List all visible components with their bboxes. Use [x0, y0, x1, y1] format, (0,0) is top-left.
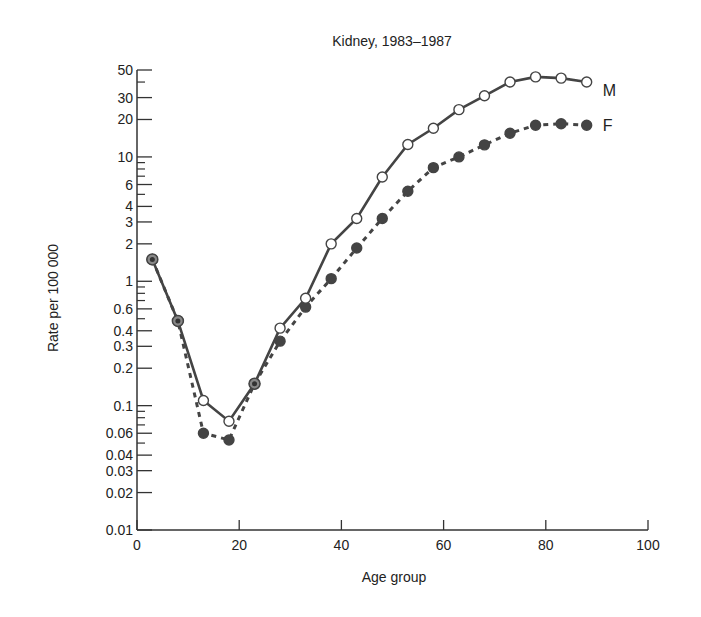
- data-point-F: [377, 213, 387, 223]
- y-tick-label: 10: [117, 149, 133, 165]
- series-label-M: M: [603, 82, 616, 99]
- plot-area: MF: [147, 72, 616, 445]
- x-tick-label: 60: [436, 537, 452, 553]
- data-point-M: [403, 139, 413, 149]
- y-tick-label: 0.1: [114, 398, 134, 414]
- data-point-F: [505, 128, 515, 138]
- axes: 0204060801000.010.020.030.040.060.10.20.…: [106, 62, 660, 553]
- data-point-M: [377, 172, 387, 182]
- data-point-F: [556, 119, 566, 129]
- data-point-F: [275, 336, 285, 346]
- y-tick-label: 0.2: [114, 360, 134, 376]
- y-tick-label: 0.04: [106, 447, 133, 463]
- y-tick-label: 50: [117, 62, 133, 78]
- data-point-M: [275, 323, 285, 333]
- chart-title: Kidney, 1983–1987: [332, 33, 452, 49]
- series-label-F: F: [603, 117, 613, 134]
- data-point-F: [352, 243, 362, 253]
- data-point-F: [326, 274, 336, 284]
- series-line-M: [152, 77, 586, 421]
- y-axis-label: Rate per 100 000: [45, 244, 61, 352]
- y-tick-label: 0.01: [106, 522, 133, 538]
- y-tick-label: 0.6: [114, 301, 134, 317]
- data-point-M: [582, 77, 592, 87]
- series-line-F: [152, 124, 586, 440]
- y-tick-label: 0.4: [114, 323, 134, 339]
- x-tick-label: 100: [636, 537, 660, 553]
- y-tick-label: 0.02: [106, 485, 133, 501]
- data-point-M: [428, 123, 438, 133]
- data-point-M: [531, 72, 541, 82]
- data-point-F: [198, 428, 208, 438]
- y-tick-label: 2: [125, 236, 133, 252]
- y-tick-label: 4: [125, 198, 133, 214]
- y-tick-label: 1: [125, 273, 133, 289]
- data-point-F: [224, 435, 234, 445]
- overlap-point-core: [175, 318, 180, 323]
- data-point-F: [454, 152, 464, 162]
- data-point-F: [479, 140, 489, 150]
- data-point-F: [428, 163, 438, 173]
- y-tick-label: 0.06: [106, 425, 133, 441]
- y-tick-label: 20: [117, 111, 133, 127]
- data-point-M: [505, 77, 515, 87]
- data-point-M: [198, 395, 208, 405]
- data-point-M: [326, 239, 336, 249]
- data-point-M: [224, 416, 234, 426]
- data-point-M: [479, 91, 489, 101]
- x-tick-label: 80: [538, 537, 554, 553]
- data-point-M: [454, 105, 464, 115]
- data-point-F: [582, 120, 592, 130]
- y-tick-label: 0.03: [106, 463, 133, 479]
- chart-container: Kidney, 1983–1987 Age group Rate per 100…: [0, 0, 701, 617]
- x-tick-label: 0: [133, 537, 141, 553]
- y-tick-label: 0.3: [114, 338, 134, 354]
- kidney-rate-chart: Kidney, 1983–1987 Age group Rate per 100…: [0, 0, 701, 617]
- overlap-point-core: [150, 257, 155, 262]
- y-tick-label: 30: [117, 90, 133, 106]
- overlap-point-core: [252, 381, 257, 386]
- data-point-M: [352, 213, 362, 223]
- data-point-F: [403, 186, 413, 196]
- x-tick-label: 20: [231, 537, 247, 553]
- x-tick-label: 40: [334, 537, 350, 553]
- x-axis-label: Age group: [362, 569, 427, 585]
- data-point-F: [531, 120, 541, 130]
- y-tick-label: 6: [125, 177, 133, 193]
- y-tick-label: 3: [125, 214, 133, 230]
- data-point-M: [556, 73, 566, 83]
- data-point-M: [301, 293, 311, 303]
